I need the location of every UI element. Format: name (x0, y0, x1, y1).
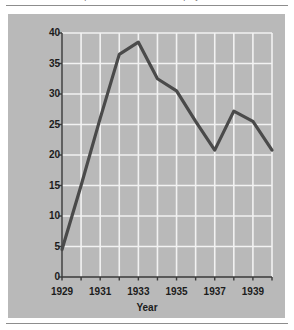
x-tick-label-1933: 1933 (118, 286, 158, 297)
y-tick-label-25: 25 (38, 119, 60, 131)
y-axis-tick-labels: 0510152025303540 (34, 0, 60, 330)
figure-root: percent of workers unemployed 0510152025… (0, 0, 294, 330)
data-line-series (62, 42, 272, 249)
x-tick-label-1929: 1929 (42, 286, 82, 297)
y-tick-label-10: 10 (38, 210, 60, 222)
y-tick-label-5: 5 (38, 241, 60, 253)
x-axis-title: Year (0, 302, 294, 313)
y-tick-label-35: 35 (38, 58, 60, 70)
bottom-divider-rule (6, 323, 288, 324)
y-tick-label-30: 30 (38, 88, 60, 100)
x-tick-label-1937: 1937 (195, 286, 235, 297)
gridlines (62, 33, 272, 277)
x-tick-label-1935: 1935 (157, 286, 197, 297)
y-tick-label-0: 0 (38, 271, 60, 283)
x-tick-label-1931: 1931 (80, 286, 120, 297)
x-axis-tick-labels: 192919311933193519371939 (0, 286, 294, 300)
x-tick-label-1939: 1939 (233, 286, 273, 297)
y-tick-label-15: 15 (38, 180, 60, 192)
y-tick-label-40: 40 (38, 27, 60, 39)
y-tick-label-20: 20 (38, 149, 60, 161)
